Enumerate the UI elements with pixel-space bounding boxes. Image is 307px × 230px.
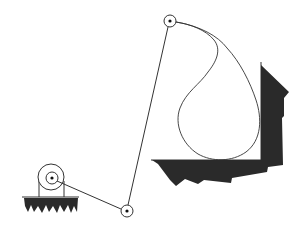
lower-joint [121, 205, 133, 217]
linkage-diagram [0, 0, 307, 230]
linkage-bars [57, 27, 168, 209]
right-ground-block [151, 62, 289, 186]
coupler-link [128, 27, 168, 205]
crank-pulley [38, 164, 64, 197]
upper-joint [164, 15, 176, 27]
left-ground-base [22, 197, 79, 213]
coupler-curve [176, 22, 260, 160]
